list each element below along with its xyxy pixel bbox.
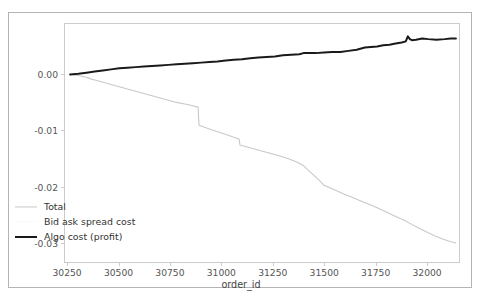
legend-item-total: Total bbox=[15, 199, 135, 214]
x-tick-label-6: 31750 bbox=[361, 267, 390, 278]
chart-legend: Total Bid ask spread cost Algo cost (pro… bbox=[15, 199, 135, 244]
legend-item-algo-cost-profit: Algo cost (profit) bbox=[15, 229, 135, 244]
legend-label-algo-cost-profit: Algo cost (profit) bbox=[44, 231, 122, 242]
x-tick-label-7: 32000 bbox=[412, 267, 441, 278]
x-axis-title: order_id bbox=[9, 279, 473, 290]
x-tick-mark-3 bbox=[221, 263, 222, 266]
x-tick-mark-1 bbox=[119, 263, 120, 266]
x-tick-label-1: 30500 bbox=[104, 267, 133, 278]
y-tick-mark-0 bbox=[61, 74, 64, 75]
y-tick-mark-1 bbox=[61, 130, 64, 131]
legend-line-total bbox=[15, 202, 37, 212]
x-tick-mark-6 bbox=[376, 263, 377, 266]
legend-item-bid-ask-spread-cost: Bid ask spread cost bbox=[15, 214, 135, 229]
x-tick-label-4: 31250 bbox=[258, 267, 287, 278]
x-tick-mark-7 bbox=[427, 263, 428, 266]
x-tick-mark-2 bbox=[170, 263, 171, 266]
legend-line-bid-ask-spread-cost bbox=[15, 217, 37, 227]
x-tick-label-5: 31500 bbox=[310, 267, 339, 278]
y-tick-label-2: -0.02 bbox=[10, 181, 58, 192]
x-tick-label-0: 30250 bbox=[52, 267, 81, 278]
x-tick-mark-4 bbox=[273, 263, 274, 266]
series-line-2 bbox=[70, 36, 456, 74]
y-tick-mark-2 bbox=[61, 187, 64, 188]
x-tick-mark-5 bbox=[324, 263, 325, 266]
y-tick-label-0: 0.00 bbox=[10, 68, 58, 79]
x-tick-label-3: 31000 bbox=[207, 267, 236, 278]
y-tick-label-1: -0.01 bbox=[10, 125, 58, 136]
legend-label-bid-ask-spread-cost: Bid ask spread cost bbox=[44, 216, 135, 227]
legend-line-algo-cost-profit bbox=[15, 232, 37, 242]
x-tick-mark-0 bbox=[67, 263, 68, 266]
figure-canvas: 0.00-0.01-0.02-0.03 30250305003075031000… bbox=[8, 12, 472, 288]
legend-label-total: Total bbox=[44, 201, 66, 212]
x-tick-label-2: 30750 bbox=[155, 267, 184, 278]
